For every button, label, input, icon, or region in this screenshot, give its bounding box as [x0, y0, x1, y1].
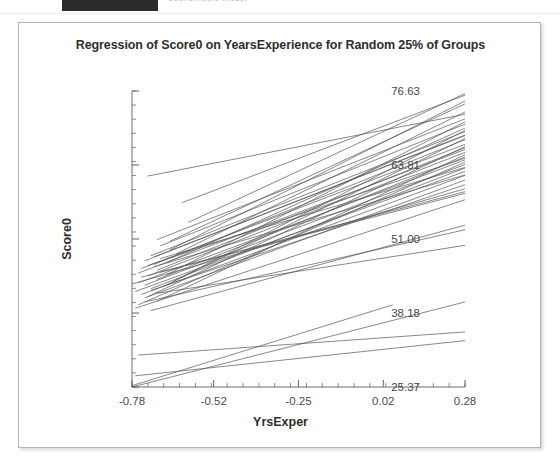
y-tick-label: 25.37: [391, 381, 427, 393]
x-axis-title: YrsExper: [19, 415, 542, 429]
y-tick-label: 63.81: [391, 159, 427, 171]
header-divider: [0, 13, 560, 14]
regression-line: [135, 341, 465, 376]
x-tick-label: -0.52: [201, 395, 227, 407]
regression-line: [145, 165, 465, 286]
x-tick-label: -0.78: [119, 395, 145, 407]
clipped-page-header: econometric model: [0, 0, 560, 14]
regression-line: [132, 305, 393, 386]
regression-line: [167, 122, 465, 275]
redacted-block: [62, 0, 158, 11]
regression-line: [157, 245, 465, 293]
y-tick-label: 38.18: [391, 307, 427, 319]
x-tick-label: 0.02: [372, 395, 394, 407]
regression-line: [138, 332, 465, 355]
figure-card: Regression of Score0 on YearsExperience …: [18, 22, 541, 448]
header-caption-text: econometric model: [168, 0, 247, 3]
y-tick-label: 51.00: [391, 233, 427, 245]
regression-line: [170, 104, 465, 241]
y-tick-label: 76.63: [391, 85, 427, 97]
y-axis-title: Score0: [60, 218, 74, 260]
chart-title: Regression of Score0 on YearsExperience …: [19, 38, 542, 52]
x-tick-label: -0.25: [285, 395, 311, 407]
regression-line: [157, 119, 465, 240]
x-tick-label: 0.28: [454, 395, 476, 407]
regression-line: [148, 158, 465, 265]
regression-line: [157, 155, 465, 302]
